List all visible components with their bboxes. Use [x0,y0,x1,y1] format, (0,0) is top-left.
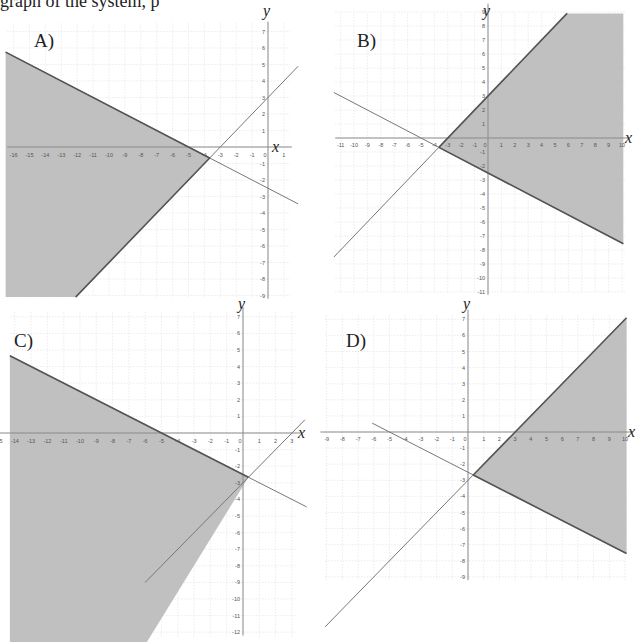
svg-text:-7: -7 [460,542,465,548]
svg-text:3: 3 [462,381,465,387]
svg-text:5: 5 [462,349,465,355]
svg-text:9: 9 [608,436,611,442]
svg-text:6: 6 [462,332,465,338]
svg-text:8: 8 [592,436,595,442]
svg-text:4: 4 [529,436,532,442]
svg-text:-3: -3 [418,436,423,442]
svg-text:7: 7 [462,316,465,322]
svg-text:-6: -6 [371,436,376,442]
svg-text:-8: -8 [460,558,465,564]
svg-text:-9: -9 [324,436,329,442]
svg-text:-3: -3 [460,477,465,483]
svg-text:1: 1 [482,436,485,442]
svg-text:4: 4 [462,365,465,371]
svg-text:1: 1 [462,413,465,419]
svg-text:y: y [461,295,471,313]
svg-text:-1: -1 [460,445,465,451]
svg-text:7: 7 [576,436,579,442]
svg-text:2: 2 [462,397,465,403]
svg-text:3: 3 [514,436,517,442]
svg-text:0: 0 [463,436,466,442]
svg-text:-8: -8 [340,436,345,442]
svg-text:-2: -2 [460,461,465,467]
svg-text:2: 2 [498,436,501,442]
choice-label: D) [346,330,366,352]
svg-text:-4: -4 [460,493,465,499]
graph-canvas: -9-8-7-6-5-4-3-2-1012345678910-9-8-7-6-5… [0,0,642,642]
solution-region [473,318,626,554]
svg-text:-1: -1 [450,436,455,442]
svg-text:5: 5 [545,436,548,442]
svg-text:6: 6 [561,436,564,442]
svg-text:-7: -7 [356,436,361,442]
svg-text:-6: -6 [460,526,465,532]
svg-text:x: x [627,423,635,440]
svg-text:-9: -9 [460,574,465,580]
svg-text:-2: -2 [434,436,439,442]
svg-text:-5: -5 [387,436,392,442]
svg-text:-5: -5 [460,510,465,516]
